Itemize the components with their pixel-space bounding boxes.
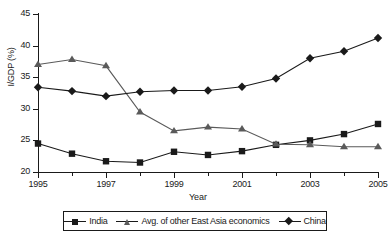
y-tick-label: 25 [0, 135, 30, 144]
diamond-marker [272, 74, 280, 82]
x-tick-minor [140, 173, 141, 176]
square-marker [273, 142, 279, 148]
x-tick-label: 2005 [358, 179, 388, 189]
x-tick-label: 1999 [154, 179, 194, 189]
triangle-marker [170, 127, 178, 133]
legend-label: China [304, 216, 326, 226]
triangle-marker [374, 143, 382, 149]
square-marker [205, 152, 211, 158]
triangle-marker [272, 140, 280, 146]
triangle-marker [102, 62, 110, 68]
x-tick-minor [344, 173, 345, 176]
square-marker [171, 149, 177, 155]
series-line [38, 124, 378, 163]
y-tick-label: 40 [0, 41, 30, 50]
x-tick-minor [276, 173, 277, 176]
legend-symbol [124, 219, 130, 225]
square-marker [375, 121, 381, 127]
triangle-marker [306, 141, 314, 147]
x-tick-label: 1997 [86, 179, 126, 189]
x-tick-major [378, 173, 379, 178]
triangle-marker [340, 143, 348, 149]
diamond-marker [170, 86, 178, 94]
series-china [34, 34, 382, 101]
diamond-marker [279, 217, 301, 226]
diamond-marker [136, 88, 144, 96]
legend-symbol [285, 217, 293, 225]
y-tick-label: 30 [0, 104, 30, 113]
triangle-marker [68, 56, 76, 62]
square-marker [341, 131, 347, 137]
diamond-marker [340, 47, 348, 55]
y-tick-label: 20 [0, 167, 30, 176]
x-tick-label: 2003 [290, 179, 330, 189]
diamond-marker [306, 54, 314, 62]
y-tick-label: 35 [0, 72, 30, 81]
x-tick-major [242, 173, 243, 178]
square-marker [69, 150, 75, 156]
legend-item[interactable]: India [64, 216, 107, 226]
square-marker [307, 137, 313, 143]
triangle-marker [136, 108, 144, 114]
y-axis-line [38, 13, 39, 173]
legend-label: India [89, 216, 107, 226]
chart-legend: IndiaAvg. of other East Asia economicsCh… [63, 211, 327, 231]
y-tick [33, 46, 38, 47]
y-tick [33, 14, 38, 15]
series-line [38, 60, 378, 147]
diamond-marker [238, 82, 246, 90]
square-marker [239, 148, 245, 154]
x-axis-title: Year [168, 192, 228, 202]
legend-item[interactable]: Avg. of other East Asia economics [116, 216, 269, 226]
x-tick-major [174, 173, 175, 178]
square-marker [103, 158, 109, 164]
diamond-marker [204, 86, 212, 94]
legend-item[interactable]: China [279, 216, 326, 226]
x-tick-minor [72, 173, 73, 176]
y-tick-label: 45 [0, 9, 30, 18]
triangle-marker [116, 217, 138, 226]
x-tick-minor [208, 173, 209, 176]
y-tick [33, 109, 38, 110]
x-tick-label: 2001 [222, 179, 262, 189]
legend-symbol [72, 219, 78, 225]
series-line [38, 38, 378, 96]
square-marker [137, 159, 143, 165]
x-tick-major [38, 173, 39, 178]
triangle-marker [238, 125, 246, 131]
diamond-marker [102, 92, 110, 100]
square-marker [64, 217, 86, 226]
legend-label: Avg. of other East Asia economics [141, 216, 269, 226]
y-tick [33, 140, 38, 141]
x-tick-label: 1995 [18, 179, 58, 189]
y-tick [33, 77, 38, 78]
x-tick-major [106, 173, 107, 178]
line-chart: I/GDP (%) Year 202530354045 199519971999… [0, 0, 388, 237]
diamond-marker [374, 34, 382, 42]
x-tick-major [310, 173, 311, 178]
series-avg-of-other-east-asia-economics [34, 56, 382, 150]
series-india [35, 121, 381, 166]
diamond-marker [68, 87, 76, 95]
triangle-marker [204, 123, 212, 129]
